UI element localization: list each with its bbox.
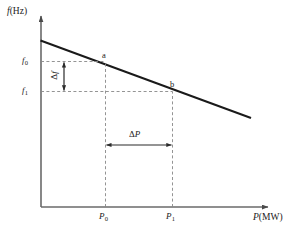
delta-p-variable: P — [135, 129, 141, 139]
x-tick-p0-symbol: P — [99, 211, 105, 221]
point-label-a: a — [102, 51, 106, 60]
x-axis-title-unit: (MW) — [259, 212, 283, 222]
x-axis-title: P(MW) — [253, 213, 283, 223]
figure-canvas — [0, 0, 299, 233]
delta-f-symbol: Δ — [49, 74, 59, 80]
droop-line — [41, 41, 252, 119]
x-tick-p1-subscript: 1 — [172, 215, 175, 222]
y-tick-f0-subscript: 0 — [25, 59, 28, 66]
delta-f-variable: f — [49, 71, 59, 74]
delta-f-label: Δf — [50, 71, 59, 79]
y-tick-label-f1: f1 — [22, 86, 28, 95]
y-tick-label-f0: f0 — [22, 56, 28, 65]
x-tick-p1-symbol: P — [166, 211, 172, 221]
x-tick-p0-subscript: 0 — [105, 215, 108, 222]
x-tick-label-p0: P0 — [99, 212, 108, 221]
x-tick-label-p1: P1 — [166, 212, 175, 221]
droop-characteristic-figure: f(Hz) P(MW) f0 f1 P0 P1 a b Δf ΔP — [0, 0, 299, 233]
y-axis-title: f(Hz) — [7, 7, 27, 17]
point-label-b: b — [170, 80, 174, 89]
y-tick-f1-subscript: 1 — [25, 89, 28, 96]
y-axis-title-unit: (Hz) — [10, 6, 27, 16]
delta-p-label: ΔP — [129, 130, 140, 139]
